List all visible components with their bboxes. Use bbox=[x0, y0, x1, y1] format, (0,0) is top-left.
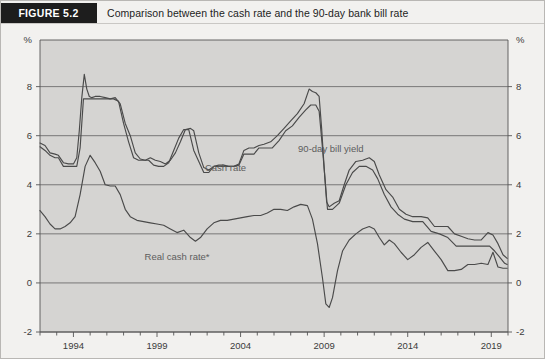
xtick-label: 1994 bbox=[63, 340, 84, 351]
ytick-label-left: 0 bbox=[27, 277, 32, 288]
y-unit-label-right: % bbox=[516, 34, 525, 45]
xtick-label: 2009 bbox=[314, 340, 335, 351]
ytick-label-left: 4 bbox=[27, 179, 32, 190]
figure-number-tag: FIGURE 5.2 bbox=[0, 3, 97, 23]
ytick-label-right: 6 bbox=[516, 130, 521, 141]
line-chart: -2-20022446688%%199419992004200920142019… bbox=[0, 26, 545, 359]
header-divider bbox=[0, 23, 545, 24]
ytick-label-left: 6 bbox=[27, 130, 32, 141]
ytick-label-right: 8 bbox=[516, 81, 521, 92]
series-annotation: 90-day bill yield bbox=[298, 143, 363, 154]
xtick-label: 2019 bbox=[481, 340, 502, 351]
series-annotation: Cash rate bbox=[205, 162, 246, 173]
ytick-label-left: 2 bbox=[27, 228, 32, 239]
y-unit-label-left: % bbox=[24, 34, 33, 45]
series-annotation: Real cash rate* bbox=[145, 251, 210, 262]
ytick-label-left: -2 bbox=[24, 326, 32, 337]
xtick-label: 2004 bbox=[230, 340, 251, 351]
xtick-label: 2014 bbox=[397, 340, 418, 351]
ytick-label-right: 2 bbox=[516, 228, 521, 239]
figure-container: FIGURE 5.2 Comparison between the cash r… bbox=[0, 0, 545, 359]
ytick-label-right: 4 bbox=[516, 179, 521, 190]
chart-area: -2-20022446688%%199419992004200920142019… bbox=[0, 26, 545, 359]
figure-header: FIGURE 5.2 Comparison between the cash r… bbox=[0, 3, 545, 23]
ytick-label-left: 8 bbox=[27, 81, 32, 92]
ytick-label-right: -2 bbox=[516, 326, 524, 337]
ytick-label-right: 0 bbox=[516, 277, 521, 288]
figure-title: Comparison between the cash rate and the… bbox=[107, 3, 408, 23]
xtick-label: 1999 bbox=[146, 340, 167, 351]
